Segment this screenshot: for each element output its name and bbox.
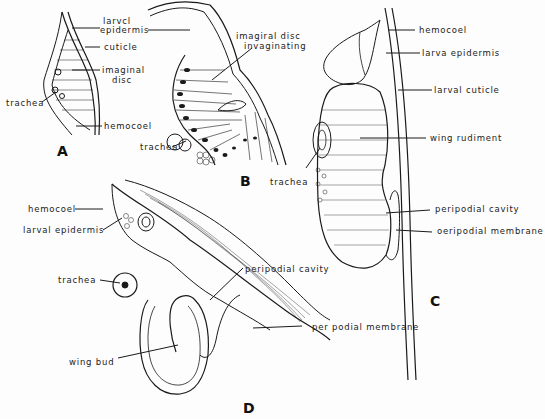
panel-letter-b: B [240,173,251,189]
label-c-peripodial-cavity: peripodial cavity [435,205,519,214]
label-c-wing-rudiment: wing rudiment [430,134,502,143]
label-a-imaginal-disc-line2: disc [112,76,132,85]
label-d-peripodial-cavity: peripodial cavity [245,265,329,274]
panel-letter-c: C [430,293,440,309]
wing-disc-development-figure: larvcl epidermis cuticle imaginal disc t… [0,0,545,419]
label-d-wing-bud: wing bud [69,358,114,367]
label-c-peripodial-membrane: oeripodial membrane [437,227,544,236]
label-b-imaginal-disc-invaginating-line2: invaginating [244,42,306,51]
label-a-cuticle: cuticle [104,43,138,52]
label-c-hemocoel: hemocoel [419,26,467,35]
label-b-trachea: trachea [140,143,178,152]
label-d-hemocoel: hemocoel [28,205,76,214]
label-d-trachea: trachea [58,276,96,285]
label-d-larval-epidermis: larval epidermis [23,226,104,235]
label-c-larva-epidermis: larva epidermis [422,49,500,58]
label-c-trachea: trachea [270,178,308,187]
label-c-larval-cuticle: larval cuticle [434,86,500,95]
panel-b-drawing [148,2,286,165]
panel-letter-a: A [57,143,68,159]
panel-letter-d: D [243,400,255,416]
label-a-trachea: trachea [6,99,44,108]
label-a-imaginal-disc-line1: imaginal [102,66,145,75]
label-a-hemocoel: hemocoel [104,122,152,131]
panel-a-drawing [42,12,102,135]
label-a-larval-epidermis-line2: epidermis [100,26,149,35]
label-b-imaginal-disc-invaginating-line1: imagiral disc [236,32,301,41]
label-d-peripodial-membrane: per podial membrane [312,323,419,332]
